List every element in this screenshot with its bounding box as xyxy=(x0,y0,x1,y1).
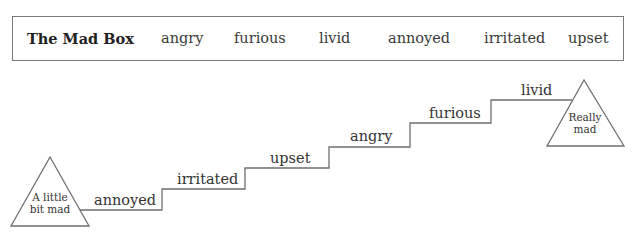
start-label-line-1: A little xyxy=(22,191,78,203)
start-label-line-2: bit mad xyxy=(22,203,78,215)
step-label-annoyed: annoyed xyxy=(94,192,156,208)
end-label-line-1: Really xyxy=(560,111,610,123)
end-triangle-label: Really mad xyxy=(560,111,610,135)
start-triangle-label: A little bit mad xyxy=(22,191,78,215)
end-label-line-2: mad xyxy=(560,123,610,135)
step-label-livid: livid xyxy=(521,82,552,98)
step-label-furious: furious xyxy=(429,105,481,121)
step-label-upset: upset xyxy=(270,150,310,166)
step-label-angry: angry xyxy=(350,128,392,144)
step-label-irritated: irritated xyxy=(177,171,238,187)
